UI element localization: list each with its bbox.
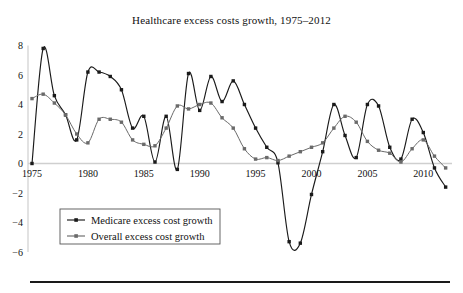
y-tick-label: 6 [18, 70, 23, 81]
data-point-marker [187, 107, 190, 110]
data-point-marker [299, 241, 302, 244]
x-tick-label: 1985 [134, 168, 154, 179]
line-chart-plot: −6−4−202468 1975198019851990199520002005… [0, 0, 463, 293]
x-tick-label: 2010 [413, 168, 433, 179]
data-point-marker [86, 70, 89, 73]
data-point-marker [30, 97, 33, 100]
data-point-marker [343, 115, 346, 118]
x-tick-label: 2005 [357, 168, 377, 179]
legend-label: Overall excess cost growth [91, 231, 205, 242]
legend-label: Medicare excess cost growth [91, 215, 213, 226]
legend-marker [74, 234, 78, 238]
data-point-marker [164, 126, 167, 129]
y-tick-label: −4 [12, 217, 23, 228]
data-point-marker [53, 101, 56, 104]
data-point-marker [209, 75, 212, 78]
data-point-marker [97, 118, 100, 121]
data-point-marker [41, 47, 44, 50]
data-point-marker [176, 104, 179, 107]
data-point-marker [131, 126, 134, 129]
data-point-marker [176, 168, 179, 171]
data-point-marker [232, 126, 235, 129]
bottom-rule-divider [30, 281, 450, 283]
data-point-marker [433, 154, 436, 157]
data-point-marker [109, 118, 112, 121]
figure-container: Healthcare excess costs growth, 1975–201… [0, 0, 463, 293]
data-point-marker [410, 147, 413, 150]
data-point-marker [422, 131, 425, 134]
data-point-marker [366, 140, 369, 143]
data-point-marker [198, 109, 201, 112]
data-point-marker [355, 121, 358, 124]
y-tick-label: 8 [18, 40, 23, 51]
data-point-marker [232, 79, 235, 82]
data-point-marker [377, 149, 380, 152]
data-point-marker [444, 185, 447, 188]
legend-marker [74, 218, 78, 222]
data-point-marker [75, 138, 78, 141]
data-point-marker [265, 146, 268, 149]
x-tick-label: 1990 [190, 168, 210, 179]
data-point-marker [265, 156, 268, 159]
data-point-marker [220, 100, 223, 103]
data-point-marker [243, 103, 246, 106]
data-point-marker [75, 132, 78, 135]
data-point-marker [187, 72, 190, 75]
data-point-marker [287, 240, 290, 243]
data-point-marker [142, 115, 145, 118]
x-tick-label: 1995 [246, 168, 266, 179]
data-point-marker [388, 151, 391, 154]
data-point-marker [422, 138, 425, 141]
data-point-marker [97, 70, 100, 73]
data-point-marker [388, 146, 391, 149]
data-point-marker [332, 126, 335, 129]
data-point-marker [164, 115, 167, 118]
y-tick-label: −2 [12, 188, 23, 199]
data-point-marker [198, 103, 201, 106]
data-point-marker [377, 104, 380, 107]
data-point-marker [243, 147, 246, 150]
data-point-marker [433, 166, 436, 169]
data-point-marker [321, 150, 324, 153]
data-point-marker [209, 101, 212, 104]
y-tick-label: −6 [12, 247, 23, 258]
data-point-marker [120, 88, 123, 91]
data-point-marker [310, 146, 313, 149]
data-point-marker [355, 156, 358, 159]
data-point-marker [109, 75, 112, 78]
data-point-marker [299, 150, 302, 153]
data-point-marker [399, 157, 402, 160]
x-tick-label: 1980 [78, 168, 98, 179]
data-point-marker [366, 103, 369, 106]
x-axis: 19751980198519901995200020052010 [22, 168, 433, 179]
data-point-marker [254, 157, 257, 160]
data-point-marker [321, 141, 324, 144]
data-point-marker [64, 113, 67, 116]
data-point-marker [276, 159, 279, 162]
data-point-marker [444, 166, 447, 169]
data-point-marker [343, 134, 346, 137]
chart-legend: Medicare excess cost growthOverall exces… [60, 209, 220, 244]
data-point-marker [410, 118, 413, 121]
data-point-marker [153, 160, 156, 163]
data-point-marker [30, 162, 33, 165]
data-point-marker [86, 141, 89, 144]
data-point-marker [120, 121, 123, 124]
x-tick-label: 1975 [22, 168, 42, 179]
data-point-marker [254, 126, 257, 129]
data-point-marker [220, 116, 223, 119]
data-point-marker [310, 193, 313, 196]
y-tick-label: 4 [18, 99, 23, 110]
data-point-marker [142, 143, 145, 146]
data-point-marker [153, 144, 156, 147]
data-point-marker [53, 94, 56, 97]
data-point-marker [332, 103, 335, 106]
y-tick-label: 2 [18, 129, 23, 140]
data-point-marker [287, 154, 290, 157]
data-point-marker [399, 160, 402, 163]
data-point-marker [41, 92, 44, 95]
data-point-marker [131, 138, 134, 141]
